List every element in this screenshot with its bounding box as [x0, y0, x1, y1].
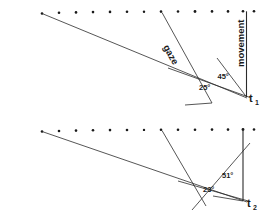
stimulus-dot — [92, 11, 95, 14]
stimulus-dot — [253, 128, 256, 131]
stimulus-dot — [227, 128, 230, 131]
stimulus-dot — [211, 128, 214, 131]
gaze-axis-label: gaze — [161, 43, 181, 67]
stimulus-dot — [58, 12, 61, 15]
movement-axis-label: movement — [235, 19, 246, 67]
stimulus-dot — [177, 10, 180, 13]
angle-label-23: 23° — [203, 185, 214, 194]
stimulus-dot-row-t2 — [41, 128, 256, 133]
stimulus-dot — [75, 129, 78, 132]
stimulus-dot — [242, 10, 245, 13]
stimulus-dot — [109, 129, 112, 132]
time-subscript-t2: 2 — [253, 204, 257, 211]
time-label-t2: t — [247, 197, 251, 209]
angle-label-45: 45° — [218, 72, 229, 81]
stimulus-dot — [227, 10, 230, 13]
angle-label-25: 25° — [199, 83, 210, 92]
stimulus-dot — [194, 128, 197, 131]
stimulus-dot — [211, 10, 214, 13]
stimulus-dot — [253, 10, 256, 13]
stimulus-dot — [194, 10, 197, 13]
angle-label-51: 51° — [222, 171, 233, 180]
stimulus-dot — [109, 11, 112, 14]
stimulus-path-line-t2 — [42, 132, 247, 203]
stimulus-dot-row-t1 — [41, 10, 256, 15]
gaze-line-t2 — [162, 131, 206, 207]
stimulus-dot — [143, 129, 145, 131]
stimulus-dot — [92, 129, 95, 132]
panel-t1: 45° 25° gaze movement t 1 — [41, 10, 259, 106]
stimulus-dot — [75, 11, 78, 14]
stimulus-dot — [143, 11, 145, 13]
stimulus-dot — [58, 130, 61, 133]
stimulus-dot — [126, 11, 129, 14]
eye-movement-geometry-figure: 45° 25° gaze movement t 1 — [0, 0, 266, 217]
gaze-line-tail-t1 — [185, 103, 212, 105]
time-subscript-t1: 1 — [255, 99, 259, 106]
panel-t2: 51° 23° t 2 — [41, 128, 257, 211]
stimulus-dot — [160, 10, 163, 13]
stimulus-dot — [126, 129, 129, 132]
stimulus-dot — [177, 128, 180, 131]
time-label-t1: t — [249, 92, 253, 104]
